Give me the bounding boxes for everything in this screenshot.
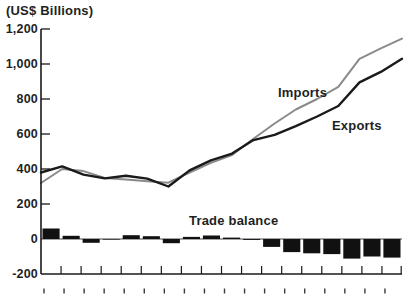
- chart-container: (US$ Billions) 1,200 1,000 800 600 400 2…: [0, 0, 406, 294]
- chart-canvas: [0, 0, 406, 294]
- exports-line-label: Exports: [332, 118, 382, 133]
- trade-balance-label: Trade balance: [189, 213, 278, 228]
- imports-line-label: Imports: [278, 85, 327, 100]
